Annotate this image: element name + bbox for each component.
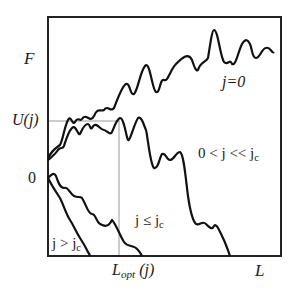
curve-label-j-le-jc-sub: c: [159, 219, 164, 230]
curve-label-j-gt-jc-text: j > j: [52, 235, 76, 251]
curve-label-j-gt-jc-sub: c: [76, 242, 81, 253]
y-label-zero: 0: [28, 170, 36, 186]
curve-label-j-le-jc-text: j ≤ j: [135, 212, 159, 228]
x-label-lopt-arg: (j): [135, 261, 154, 278]
curve-label-small-j-text: 0 < j << j: [198, 145, 254, 161]
curve-label-j0: j=0: [222, 74, 245, 90]
x-label-lopt-sub: opt: [121, 268, 135, 280]
curve-label-j-le-jc: j ≤ jc: [135, 213, 164, 230]
curve-label-small-j: 0 < j << jc: [198, 146, 259, 163]
plot-frame: [48, 17, 281, 256]
x-label-lopt-main: L: [112, 261, 121, 278]
curve-label-j-gt-jc: j > jc: [52, 236, 81, 253]
curve-label-small-j-sub: c: [254, 152, 259, 163]
y-label-u: U(j): [12, 112, 39, 128]
y-label-f: F: [24, 50, 34, 67]
curve-j0: [48, 30, 274, 158]
x-label-lopt: Lopt (j): [112, 262, 154, 280]
x-label-l: L: [255, 262, 264, 279]
